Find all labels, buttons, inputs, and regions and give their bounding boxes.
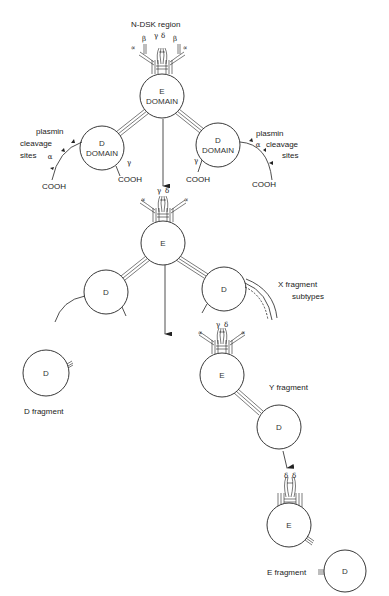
svg-text:δ: δ bbox=[224, 321, 228, 329]
d-domain-right-label: D bbox=[215, 136, 221, 145]
x-fragment-d-right-label: D bbox=[221, 285, 227, 294]
coiled-coil-x-right bbox=[176, 256, 208, 278]
coiled-coil-left-top bbox=[116, 109, 149, 136]
e-fragment-d-stub bbox=[318, 570, 324, 574]
e-fragment-d-label: D bbox=[342, 567, 348, 576]
x-alpha-right-3 bbox=[246, 279, 277, 318]
svg-text:γ: γ bbox=[216, 321, 220, 329]
sites-label-left: sites bbox=[20, 151, 36, 160]
e-domain-label: E bbox=[159, 87, 164, 96]
d-fragment-caption: D fragment bbox=[24, 407, 64, 416]
svg-text:δ: δ bbox=[292, 472, 296, 480]
d-fragment-label: D bbox=[43, 369, 49, 378]
alpha-label-left: α bbox=[48, 153, 53, 161]
y-fragment-e-label: E bbox=[219, 371, 224, 380]
gamma-label-right: γ bbox=[194, 157, 198, 165]
svg-text:β: β bbox=[142, 35, 146, 43]
cooh-label-2: COOH bbox=[118, 175, 142, 184]
coiled-coil-x-left bbox=[121, 256, 150, 280]
ndsk-region-top bbox=[139, 44, 185, 74]
svg-text:β: β bbox=[173, 35, 177, 43]
d-domain-right-label-2: DOMAIN bbox=[202, 146, 234, 155]
svg-text:∝: ∝ bbox=[241, 329, 246, 337]
coiled-coil-right-top bbox=[175, 109, 204, 133]
svg-text:∝: ∝ bbox=[184, 196, 189, 204]
d-domain-left-label-2: DOMAIN bbox=[86, 149, 118, 158]
x-gamma-right bbox=[202, 304, 207, 313]
d-domain-right-circle bbox=[196, 123, 240, 167]
x-fragment-d-left-label: D bbox=[103, 288, 109, 297]
ndsk-region-e bbox=[278, 477, 302, 507]
arrow-to-e-fragment bbox=[283, 451, 287, 468]
svg-text:∝: ∝ bbox=[198, 329, 203, 337]
svg-text:δ: δ bbox=[284, 472, 288, 480]
sites-label-right: sites bbox=[282, 151, 298, 160]
svg-text:∝: ∝ bbox=[131, 44, 136, 52]
ndsk-region-label: N-DSK region bbox=[131, 20, 180, 29]
cleavage-site-markers-left bbox=[50, 139, 75, 170]
e-fragment-caption: E fragment bbox=[267, 568, 307, 577]
e-domain-label-2: DOMAIN bbox=[146, 97, 178, 106]
e-fragment-e-label: E bbox=[286, 521, 291, 530]
svg-text:δ: δ bbox=[165, 187, 169, 195]
y-fragment-d-label: D bbox=[276, 423, 282, 432]
gamma-label-left: γ bbox=[127, 159, 131, 167]
cooh-label-3: COOH bbox=[186, 175, 210, 184]
x-fragment-caption-2: subtypes bbox=[292, 292, 324, 301]
coiled-coil-y bbox=[234, 389, 263, 415]
fibrinogen-degradation-diagram: N-DSK region ∝ β γ δ β ∝ E DOMAIN D DOMA… bbox=[0, 0, 389, 596]
x-alpha-right-1 bbox=[245, 283, 272, 320]
x-alpha-right-2 bbox=[245, 287, 268, 320]
y-fragment-caption: Y fragment bbox=[269, 383, 309, 392]
svg-text:δ: δ bbox=[161, 32, 165, 40]
svg-text:∝: ∝ bbox=[141, 196, 146, 204]
cleavage-label-right: cleavage bbox=[266, 140, 299, 149]
ndsk-region-y bbox=[199, 328, 245, 354]
svg-text:∝: ∝ bbox=[183, 44, 188, 52]
d-domain-left-label: D bbox=[99, 139, 105, 148]
plasmin-label-left: plasmin bbox=[36, 127, 64, 136]
svg-text:γ: γ bbox=[154, 32, 158, 40]
alpha-label-right: α bbox=[256, 141, 261, 149]
e-domain-circle bbox=[140, 74, 184, 118]
chain-labels-top: ∝ β γ δ β ∝ bbox=[131, 32, 188, 52]
svg-text:γ: γ bbox=[157, 187, 161, 195]
ndsk-region-x bbox=[140, 196, 186, 222]
plasmin-label-right: plasmin bbox=[256, 129, 284, 138]
gamma-chain-right bbox=[198, 160, 202, 172]
cooh-label-1: COOH bbox=[42, 182, 66, 191]
x-alpha-left bbox=[55, 296, 85, 322]
x-gamma-left bbox=[122, 307, 126, 316]
cooh-label-4: COOH bbox=[252, 180, 276, 189]
d-domain-left-circle bbox=[80, 126, 124, 170]
x-fragment-caption: X fragment bbox=[278, 280, 318, 289]
alpha-chain-left bbox=[52, 142, 82, 180]
x-fragment-e-label: E bbox=[160, 239, 165, 248]
cleavage-label-left: cleavage bbox=[20, 139, 53, 148]
